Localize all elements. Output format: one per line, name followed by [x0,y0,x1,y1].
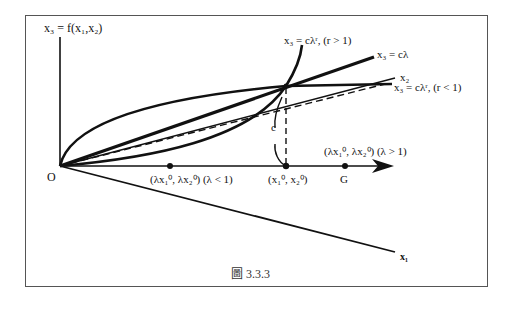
point-base [283,163,289,169]
point-lambda-lt-1 [167,163,173,169]
point-lambda-gt-1-label: (λx₁⁰, λx₂⁰) (λ > 1) [324,146,407,157]
c-label: c [271,122,276,133]
point-G [342,163,348,169]
point-G-label: G [340,174,348,185]
point-base-label: (x₁⁰, x₂⁰) [268,174,308,185]
vertical-axis-label: x₃ = f(x₁,x₂) [44,22,102,34]
point-lambda-lt-1-label: (λx₁⁰, λx₂⁰) (λ < 1) [150,174,233,185]
figure-caption: 圖 3.3.3 [231,268,270,280]
curve-r-lt-1-label: x₃ = cλʳ, (r < 1) [394,82,461,93]
intersection-point [284,84,289,89]
x1-axis-label: x₁ [400,252,408,262]
curve-r-gt-1-label: x₃ = cλʳ, (r > 1) [284,35,351,46]
curve-r-gt-1 [60,45,302,166]
origin-label: O [47,171,56,183]
returns-to-scale-diagram [0,0,520,309]
linear-line-label: x₃ = cλ [377,49,408,60]
